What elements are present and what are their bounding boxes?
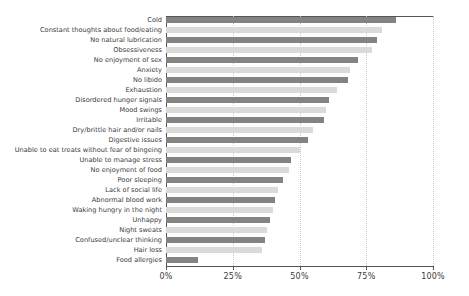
bar — [166, 227, 267, 233]
bar-row — [166, 126, 433, 135]
bar — [166, 87, 337, 93]
bar-row — [166, 106, 433, 115]
bar-row — [166, 176, 433, 185]
bar — [166, 167, 289, 173]
x-tick-label-25: 25% — [224, 272, 242, 281]
bar — [166, 77, 348, 83]
bar — [166, 137, 308, 143]
y-axis-label: Confused/unclear thinking — [0, 236, 162, 245]
y-axis-label: Night sweats — [0, 226, 162, 235]
bar — [166, 57, 358, 63]
bar — [166, 127, 313, 133]
y-axis-label: Digestive issues — [0, 136, 162, 145]
bar-row — [166, 136, 433, 145]
bar-row — [166, 226, 433, 235]
y-axis-label: Cold — [0, 16, 162, 25]
y-axis-label: Unable to manage stress — [0, 156, 162, 165]
bar-row — [166, 66, 433, 75]
bar-row — [166, 26, 433, 35]
bar-row — [166, 186, 433, 195]
x-tick-100 — [433, 266, 434, 270]
bar-row — [166, 116, 433, 125]
y-axis-label: Obsessiveness — [0, 46, 162, 55]
bar — [166, 117, 324, 123]
y-axis-label: Dry/brittle hair and/or nails — [0, 126, 162, 135]
x-tick-50 — [300, 266, 301, 270]
y-axis-label: Mood swings — [0, 106, 162, 115]
bar-row — [166, 166, 433, 175]
bar — [166, 247, 262, 253]
bar — [166, 147, 300, 153]
bar-row — [166, 56, 433, 65]
y-axis-label: Hair loss — [0, 246, 162, 255]
y-axis-label: Poor sleeping — [0, 176, 162, 185]
bar — [166, 97, 329, 103]
y-axis-label: No libido — [0, 76, 162, 85]
bar-row — [166, 96, 433, 105]
y-axis-label: No enjoyment of food — [0, 166, 162, 175]
y-axis-label: No natural lubrication — [0, 36, 162, 45]
y-axis-label: Anxiety — [0, 66, 162, 75]
y-axis-label: Waking hungry in the night — [0, 206, 162, 215]
symptom-frequency-bar-chart: 0%25%50%75%100% ColdConstant thoughts ab… — [0, 0, 469, 296]
bar-row — [166, 246, 433, 255]
bar — [166, 47, 372, 53]
x-tick-0 — [166, 266, 167, 270]
x-tick-label-0: 0% — [159, 272, 172, 281]
y-axis-label: Abnormal blood work — [0, 196, 162, 205]
bar — [166, 207, 273, 213]
x-tick-label-75: 75% — [357, 272, 375, 281]
bar — [166, 177, 283, 183]
y-axis-label: Constant thoughts about food/eating — [0, 26, 162, 35]
bar-row — [166, 236, 433, 245]
bar-row — [166, 16, 433, 25]
bar — [166, 217, 270, 223]
y-axis-label: Food allergies — [0, 256, 162, 265]
bar-row — [166, 76, 433, 85]
bar — [166, 37, 377, 43]
y-axis-label: Irritable — [0, 116, 162, 125]
bar — [166, 67, 350, 73]
bar-row — [166, 206, 433, 215]
bar-row — [166, 216, 433, 225]
x-tick-75 — [366, 266, 367, 270]
y-axis-label: Unable to eat treats without fear of bin… — [0, 146, 162, 155]
gridline-100 — [433, 16, 435, 266]
bar-group — [166, 16, 433, 266]
y-axis-label: Lack of social life — [0, 186, 162, 195]
bar-row — [166, 156, 433, 165]
y-axis-label: Disordered hunger signals — [0, 96, 162, 105]
bar-row — [166, 46, 433, 55]
y-axis-label: No enjoyment of sex — [0, 56, 162, 65]
bar-row — [166, 86, 433, 95]
bar-row — [166, 36, 433, 45]
x-tick-25 — [233, 266, 234, 270]
bar-row — [166, 256, 433, 265]
y-axis-label: Unhappy — [0, 216, 162, 225]
bar — [166, 107, 326, 113]
bar — [166, 27, 382, 33]
bar-row — [166, 196, 433, 205]
bar — [166, 197, 275, 203]
bar — [166, 17, 396, 23]
x-tick-label-50: 50% — [290, 272, 308, 281]
bar — [166, 237, 265, 243]
bar — [166, 187, 278, 193]
bar — [166, 257, 198, 263]
x-tick-label-100: 100% — [421, 272, 445, 281]
bar — [166, 157, 291, 163]
y-axis-label: Exhaustion — [0, 86, 162, 95]
bar-row — [166, 146, 433, 155]
y-axis-category-label-group: ColdConstant thoughts about food/eatingN… — [0, 16, 162, 266]
